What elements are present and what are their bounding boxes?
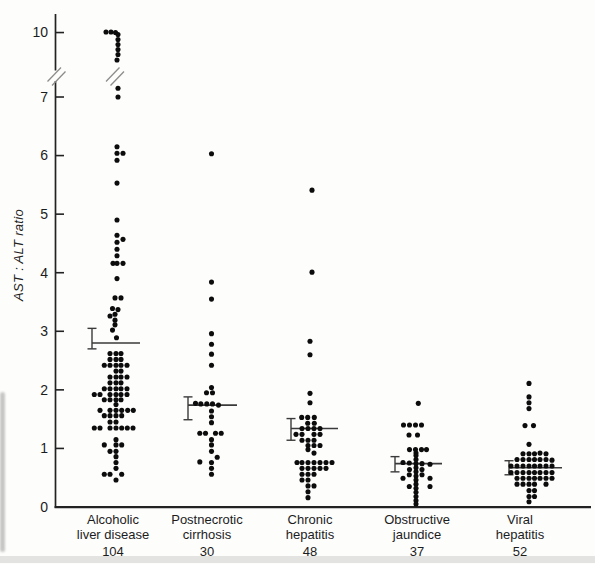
data-point xyxy=(113,420,118,425)
data-point xyxy=(102,472,107,477)
data-point xyxy=(107,392,112,397)
data-point xyxy=(209,437,214,442)
data-point xyxy=(407,472,412,477)
data-point xyxy=(413,502,418,507)
data-point xyxy=(124,363,129,368)
data-point xyxy=(119,472,124,477)
data-point xyxy=(107,449,112,454)
group-label-line2: jaundice xyxy=(359,527,475,542)
data-point xyxy=(532,463,537,468)
data-point xyxy=(108,29,113,34)
data-point xyxy=(198,401,203,406)
data-point xyxy=(427,462,432,467)
data-point xyxy=(119,442,124,447)
data-point xyxy=(317,443,322,448)
data-point xyxy=(413,422,418,427)
y-tick-label: 5 xyxy=(40,206,48,222)
data-point xyxy=(125,408,130,413)
y-tick-label: 3 xyxy=(40,323,48,339)
data-point xyxy=(520,463,525,468)
group-label-line1: Obstructive xyxy=(359,512,475,527)
group-label-line1: Chronic xyxy=(252,512,368,527)
group-label: Viralhepatitis52 xyxy=(462,512,578,559)
data-point xyxy=(107,397,112,402)
data-point xyxy=(419,422,424,427)
data-point xyxy=(115,307,120,312)
data-point xyxy=(209,363,214,368)
data-point xyxy=(311,432,316,437)
y-tick-label: 4 xyxy=(40,265,48,281)
data-point xyxy=(125,425,130,430)
data-point xyxy=(102,386,107,391)
data-point xyxy=(419,447,424,452)
data-point xyxy=(526,494,531,499)
data-point xyxy=(115,47,120,52)
data-point xyxy=(113,386,118,391)
data-point xyxy=(305,460,310,465)
data-point xyxy=(305,426,310,431)
data-point xyxy=(113,454,118,459)
data-point xyxy=(508,470,513,475)
data-point xyxy=(119,425,124,430)
data-point xyxy=(114,233,119,238)
data-point xyxy=(407,461,412,466)
data-point xyxy=(400,460,405,465)
data-point xyxy=(537,451,542,456)
data-point xyxy=(543,457,548,462)
data-point xyxy=(118,397,123,402)
data-point xyxy=(113,449,118,454)
data-point xyxy=(520,457,525,462)
data-point xyxy=(204,390,209,395)
data-point xyxy=(209,385,214,390)
data-point xyxy=(113,369,118,374)
data-point xyxy=(115,94,120,99)
data-point xyxy=(209,352,214,357)
axis-break-mark xyxy=(48,68,62,82)
data-point xyxy=(549,458,554,463)
scatter-plot-canvas: 1076543210 xyxy=(0,0,595,564)
data-point xyxy=(526,394,531,399)
data-point xyxy=(294,460,299,465)
data-point xyxy=(113,363,118,368)
data-point xyxy=(305,421,310,426)
data-point xyxy=(427,484,432,489)
data-point xyxy=(532,476,537,481)
data-point xyxy=(120,151,125,156)
data-point xyxy=(113,425,118,430)
data-point xyxy=(543,476,548,481)
data-point xyxy=(102,442,107,447)
data-point xyxy=(520,470,525,475)
data-point xyxy=(526,442,531,447)
data-point xyxy=(113,357,118,362)
group-label-line1: Viral xyxy=(462,512,578,527)
data-point xyxy=(118,369,123,374)
data-point xyxy=(317,426,322,431)
data-point xyxy=(305,415,310,420)
group-label-line1: Postnecrotic xyxy=(149,512,265,527)
data-point xyxy=(114,151,119,156)
data-point xyxy=(219,431,224,436)
data-point xyxy=(118,357,123,362)
data-point xyxy=(317,466,322,471)
data-point xyxy=(543,463,548,468)
data-point xyxy=(299,478,304,483)
data-point xyxy=(419,467,424,472)
data-point xyxy=(532,494,537,499)
data-point xyxy=(118,374,123,379)
data-point xyxy=(204,401,209,406)
data-point xyxy=(526,463,531,468)
y-tick-label: 6 xyxy=(40,147,48,163)
data-point xyxy=(305,438,310,443)
y-tick-label: 10 xyxy=(32,24,48,40)
data-point xyxy=(112,318,117,323)
data-point xyxy=(522,423,527,428)
data-point xyxy=(103,29,108,34)
data-point xyxy=(311,483,316,488)
data-point xyxy=(213,431,218,436)
data-point xyxy=(112,295,117,300)
data-point xyxy=(97,425,102,430)
data-point xyxy=(424,447,429,452)
data-point xyxy=(209,414,214,419)
group-label: Obstructivejaundice37 xyxy=(359,512,475,559)
data-point xyxy=(114,253,119,258)
